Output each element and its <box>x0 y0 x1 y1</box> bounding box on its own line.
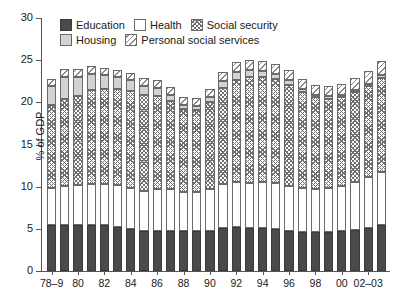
bar[interactable] <box>100 68 109 271</box>
y-tick-label: 20 <box>9 95 33 108</box>
bar[interactable] <box>73 69 82 271</box>
bar[interactable] <box>87 66 96 271</box>
bar-segment-social-security <box>337 97 346 186</box>
bar-segment-education <box>324 232 333 271</box>
legend-item[interactable]: Social security <box>191 19 278 31</box>
bar[interactable] <box>60 69 69 271</box>
bar-segment-housing <box>218 81 227 88</box>
bar-segment-social-security <box>153 96 162 190</box>
bar-segment-social-security <box>87 90 96 184</box>
bar[interactable] <box>245 60 254 271</box>
x-tick-mark <box>52 271 53 275</box>
bar[interactable] <box>47 79 56 271</box>
legend-swatch-social-security <box>191 19 203 31</box>
bar[interactable] <box>126 73 135 271</box>
bar[interactable] <box>153 80 162 271</box>
bar[interactable] <box>271 64 280 271</box>
x-tick-mark <box>78 271 79 275</box>
bar-segment-personal-social-services <box>47 79 56 87</box>
bar-segment-education <box>232 227 241 271</box>
bar-segment-education <box>113 227 122 271</box>
bar-segment-health <box>179 192 188 232</box>
bar-segment-health <box>364 177 373 228</box>
x-tick-label: 80 <box>72 277 84 290</box>
bar-segment-health <box>258 182 267 228</box>
bar-segment-education <box>284 231 293 271</box>
bar[interactable] <box>324 86 333 271</box>
bar[interactable] <box>298 79 307 271</box>
bar-segment-health <box>311 189 320 232</box>
bar[interactable] <box>364 71 373 271</box>
x-tick-mark <box>236 271 237 275</box>
bar-segment-health <box>337 186 346 232</box>
legend-item[interactable]: Health <box>134 19 182 31</box>
bar-segment-social-security <box>100 89 109 184</box>
y-tick-label: 10 <box>9 180 33 193</box>
bar-segment-education <box>377 225 386 271</box>
x-tick-label: 86 <box>151 277 163 290</box>
legend-item[interactable]: Education <box>60 19 125 31</box>
bar-segment-personal-social-services <box>73 69 82 77</box>
bar-segment-personal-social-services <box>311 85 320 95</box>
bar[interactable] <box>350 78 359 271</box>
bar-segment-education <box>47 225 56 271</box>
bar-segment-personal-social-services <box>337 84 346 95</box>
bar-segment-health <box>73 185 82 225</box>
x-axis-ticks: 78–9808284868890929496980002–03 <box>41 271 390 297</box>
legend-swatch-health <box>134 19 146 31</box>
bar[interactable] <box>377 61 386 271</box>
bar-segment-personal-social-services <box>377 61 386 74</box>
bar-segment-housing <box>87 74 96 90</box>
bar-segment-housing <box>47 86 56 105</box>
bar-segment-education <box>126 229 135 271</box>
chart-root: 051015202530 % of GDP 78–980828486889092… <box>0 0 397 299</box>
bar-segment-social-security <box>245 77 254 183</box>
legend-label: Housing <box>76 34 116 46</box>
bar[interactable] <box>179 97 188 271</box>
bar-segment-personal-social-services <box>166 87 175 95</box>
bar[interactable] <box>311 85 320 271</box>
x-tick-mark <box>342 271 343 275</box>
y-tick-label: 30 <box>9 11 33 24</box>
bar-segment-education <box>192 231 201 271</box>
bar-segment-social-security <box>192 110 201 192</box>
bar[interactable] <box>218 72 227 271</box>
bar[interactable] <box>232 62 241 271</box>
x-tick-label: 94 <box>257 277 269 290</box>
bar[interactable] <box>113 70 122 272</box>
x-tick-mark <box>315 271 316 275</box>
bar-segment-social-security <box>179 109 188 192</box>
bar-segment-education <box>271 229 280 271</box>
x-tick-label: 02–03 <box>354 277 383 290</box>
bar-segment-education <box>218 228 227 271</box>
bar-segment-education <box>166 231 175 271</box>
bar-segment-personal-social-services <box>232 62 241 72</box>
bar[interactable] <box>258 61 267 271</box>
x-tick-label: 82 <box>99 277 111 290</box>
legend-item[interactable]: Housing <box>60 34 116 46</box>
bar-segment-personal-social-services <box>271 64 280 74</box>
bar[interactable] <box>139 78 148 271</box>
bar-segment-personal-social-services <box>324 86 333 96</box>
y-tick-label: 15 <box>9 138 33 151</box>
bar-segment-education <box>60 225 69 271</box>
bar-segment-personal-social-services <box>284 70 293 80</box>
bar-segment-education <box>205 231 214 271</box>
bar[interactable] <box>337 84 346 271</box>
bar-segment-health <box>60 186 69 225</box>
y-tick-label: 25 <box>9 53 33 66</box>
bar[interactable] <box>192 98 201 271</box>
x-tick-mark <box>263 271 264 275</box>
bar[interactable] <box>284 70 293 271</box>
bar-segment-housing <box>139 86 148 95</box>
bar-segment-personal-social-services <box>364 71 373 84</box>
bar-segment-social-security <box>298 92 307 188</box>
bar-segment-education <box>153 231 162 271</box>
bar[interactable] <box>205 89 214 271</box>
bar-segment-personal-social-services <box>218 72 227 81</box>
legend-item[interactable]: Personal social services <box>125 34 259 46</box>
bar-segment-personal-social-services <box>205 89 214 97</box>
bar-segment-health <box>271 183 280 229</box>
bar[interactable] <box>166 87 175 271</box>
bar-segment-social-security <box>218 88 227 184</box>
